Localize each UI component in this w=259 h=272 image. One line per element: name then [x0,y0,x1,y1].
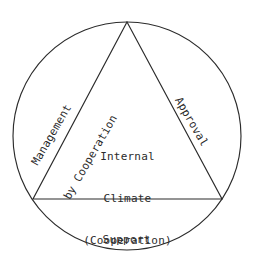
edge-label-line-1: Approval [160,75,222,169]
center-label-line-2: Climate [0,192,257,206]
edge-label-line-1: Support [0,233,256,247]
diagram-canvas: Internal Climate (Cooperation) Managemen… [0,0,259,272]
edge-label-support: Support [0,205,256,272]
clipped-caption [0,265,259,272]
